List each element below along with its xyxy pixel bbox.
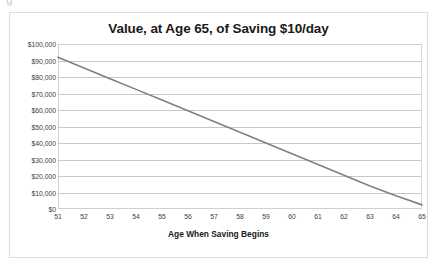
y-tick-label: $30,000 <box>10 156 56 163</box>
y-tick-label: $50,000 <box>10 123 56 130</box>
y-axis-tick-labels: $100,000$90,000$80,000$70,000$60,000$50,… <box>10 44 56 209</box>
x-tick-label: 61 <box>306 213 330 221</box>
x-tick-label: 65 <box>410 213 434 221</box>
y-tick-label: $40,000 <box>10 140 56 147</box>
y-tick-label: $60,000 <box>10 107 56 114</box>
x-tick-label: 53 <box>98 213 122 221</box>
x-tick-label: 60 <box>280 213 304 221</box>
y-tick-label: $90,000 <box>10 57 56 64</box>
y-tick-label: $0 <box>10 206 56 213</box>
y-tick-label: $20,000 <box>10 173 56 180</box>
x-tick-label: 57 <box>202 213 226 221</box>
x-tick-label: 64 <box>384 213 408 221</box>
x-tick-label: 51 <box>46 213 70 221</box>
x-tick-label: 63 <box>358 213 382 221</box>
x-tick-label: 59 <box>254 213 278 221</box>
data-series-line <box>58 44 422 209</box>
chart-container: Value, at Age 65, of Saving $10/day $100… <box>9 12 428 258</box>
x-axis-title: Age When Saving Begins <box>10 229 427 239</box>
x-tick-label: 62 <box>332 213 356 221</box>
y-tick-label: $80,000 <box>10 74 56 81</box>
chart-title: Value, at Age 65, of Saving $10/day <box>10 21 427 36</box>
x-tick-label: 58 <box>228 213 252 221</box>
x-tick-label: 54 <box>124 213 148 221</box>
clipped-text-artifact: g <box>6 0 46 6</box>
x-tick-label: 52 <box>72 213 96 221</box>
y-tick-label: $100,000 <box>10 41 56 48</box>
y-tick-label: $70,000 <box>10 90 56 97</box>
x-axis-tick-labels: 515253545556575859606162636465 <box>58 213 422 223</box>
y-tick-label: $10,000 <box>10 189 56 196</box>
x-tick-label: 56 <box>176 213 200 221</box>
x-tick-label: 55 <box>150 213 174 221</box>
plot-area <box>58 44 422 209</box>
